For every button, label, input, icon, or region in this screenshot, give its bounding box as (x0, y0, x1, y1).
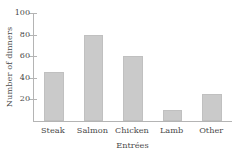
bar (123, 56, 143, 121)
plot-area: 20406080100 SteakSalmonChickenLambOther (33, 13, 232, 122)
x-tick-label: Chicken (112, 125, 152, 136)
y-axis-title: Number of dinners (2, 6, 16, 128)
bar (44, 72, 64, 121)
x-tick-label: Other (191, 125, 231, 136)
bar-column (202, 13, 222, 121)
bar-column (123, 13, 143, 121)
bar (163, 110, 183, 121)
bar (202, 94, 222, 121)
x-tick-label: Lamb (152, 125, 192, 136)
bar-chart-figure: Number of dinners 20406080100 SteakSalmo… (0, 0, 235, 162)
x-tick-label: Salmon (73, 125, 113, 136)
y-tick-label: 40 (20, 72, 30, 83)
bar-column (44, 13, 64, 121)
bar (84, 35, 104, 121)
y-tick-label: 60 (20, 50, 30, 61)
y-tick-label: 80 (20, 29, 30, 40)
y-tick-label: 100 (15, 7, 30, 18)
bar-column (163, 13, 183, 121)
bar-series (34, 13, 232, 121)
x-axis-title: Entrées (33, 140, 232, 150)
bar-column (84, 13, 104, 121)
y-tick-label: 20 (20, 93, 30, 104)
x-tick-label: Steak (33, 125, 73, 136)
x-axis-line (33, 121, 232, 122)
